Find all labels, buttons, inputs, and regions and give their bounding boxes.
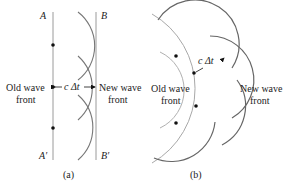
panel-a: c Δt A B A′ B′ Old wave front New wave f…	[6, 10, 142, 181]
wavelet-arc-2	[210, 36, 254, 118]
panel-b: c Δt Old wave front New wave front (b)	[151, 0, 283, 181]
distance-label: c Δt	[64, 81, 80, 92]
distance-arrow-left	[196, 68, 203, 72]
wavelet-arc-bottom	[78, 95, 93, 160]
old-wavefront-label-line1: Old wave	[6, 82, 45, 93]
source-point	[51, 85, 55, 89]
caption-b: (b)	[190, 169, 202, 181]
old-wavefront-label-line1: Old wave	[151, 83, 190, 94]
old-wavefront-label-line2: front	[161, 95, 181, 106]
label-B: B	[101, 10, 107, 21]
label-A-prime: A′	[38, 150, 48, 161]
new-wavefront-label-line2: front	[250, 95, 270, 106]
source-point	[51, 126, 55, 130]
label-A: A	[39, 10, 47, 21]
source-point	[174, 121, 178, 125]
old-wavefront-label-line2: front	[16, 94, 36, 105]
distance-label: c Δt	[198, 55, 214, 66]
new-wavefront-label-line1: New wave	[99, 82, 142, 93]
source-point	[192, 71, 196, 75]
distance-arrow-right	[222, 58, 224, 60]
new-wavefront-label-line1: New wave	[240, 83, 283, 94]
label-B-prime: B′	[101, 150, 110, 161]
source-point	[174, 54, 178, 58]
source-point	[51, 43, 55, 47]
wavelet-arc-top	[78, 12, 95, 80]
caption-a: (a)	[63, 169, 74, 181]
new-wavefront-label-line2: front	[108, 94, 128, 105]
source-point	[194, 104, 198, 108]
huygens-diagram: c Δt A B A′ B′ Old wave front New wave f…	[0, 0, 289, 183]
